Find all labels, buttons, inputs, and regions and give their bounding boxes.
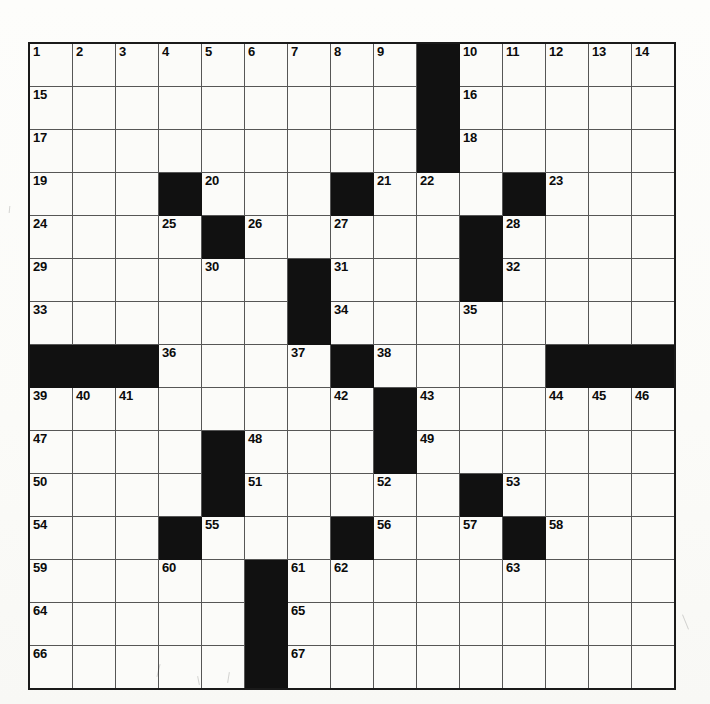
crossword-cell[interactable] <box>288 474 331 517</box>
crossword-cell[interactable]: 47 <box>29 431 73 474</box>
crossword-cell[interactable]: 37 <box>288 345 331 388</box>
crossword-cell[interactable] <box>417 345 460 388</box>
crossword-cell[interactable] <box>460 646 503 690</box>
crossword-cell[interactable] <box>116 259 159 302</box>
crossword-cell[interactable]: 43 <box>417 388 460 431</box>
crossword-cell[interactable] <box>374 302 417 345</box>
crossword-cell[interactable] <box>288 87 331 130</box>
crossword-cell[interactable] <box>546 130 589 173</box>
crossword-cell[interactable] <box>202 302 245 345</box>
crossword-cell[interactable]: 62 <box>331 560 374 603</box>
crossword-cell[interactable] <box>288 388 331 431</box>
crossword-cell[interactable] <box>417 259 460 302</box>
crossword-cell[interactable]: 38 <box>374 345 417 388</box>
crossword-cell[interactable]: 4 <box>159 43 202 87</box>
crossword-cell[interactable] <box>288 173 331 216</box>
crossword-cell[interactable]: 52 <box>374 474 417 517</box>
crossword-cell[interactable] <box>503 603 546 646</box>
crossword-cell[interactable] <box>632 560 676 603</box>
crossword-cell[interactable]: 48 <box>245 431 288 474</box>
crossword-cell[interactable] <box>589 302 632 345</box>
crossword-cell[interactable]: 32 <box>503 259 546 302</box>
crossword-cell[interactable] <box>202 87 245 130</box>
crossword-cell[interactable]: 20 <box>202 173 245 216</box>
crossword-cell[interactable] <box>116 87 159 130</box>
crossword-cell[interactable] <box>632 173 676 216</box>
crossword-cell[interactable]: 21 <box>374 173 417 216</box>
crossword-cell[interactable] <box>374 603 417 646</box>
crossword-cell[interactable] <box>73 474 116 517</box>
crossword-cell[interactable] <box>503 130 546 173</box>
crossword-cell[interactable] <box>288 431 331 474</box>
crossword-cell[interactable]: 39 <box>29 388 73 431</box>
crossword-cell[interactable] <box>116 560 159 603</box>
crossword-cell[interactable] <box>374 560 417 603</box>
crossword-cell[interactable] <box>503 388 546 431</box>
crossword-cell[interactable] <box>632 259 676 302</box>
crossword-cell[interactable] <box>245 130 288 173</box>
crossword-cell[interactable] <box>417 603 460 646</box>
crossword-cell[interactable]: 49 <box>417 431 460 474</box>
crossword-cell[interactable]: 36 <box>159 345 202 388</box>
crossword-cell[interactable] <box>589 216 632 259</box>
crossword-cell[interactable] <box>546 302 589 345</box>
crossword-cell[interactable] <box>331 431 374 474</box>
crossword-cell[interactable]: 41 <box>116 388 159 431</box>
crossword-cell[interactable] <box>417 517 460 560</box>
crossword-cell[interactable] <box>159 474 202 517</box>
crossword-cell[interactable]: 26 <box>245 216 288 259</box>
crossword-cell[interactable] <box>589 130 632 173</box>
crossword-cell[interactable] <box>116 474 159 517</box>
crossword-cell[interactable]: 6 <box>245 43 288 87</box>
crossword-cell[interactable]: 5 <box>202 43 245 87</box>
crossword-cell[interactable] <box>73 603 116 646</box>
crossword-cell[interactable]: 16 <box>460 87 503 130</box>
crossword-cell[interactable]: 10 <box>460 43 503 87</box>
crossword-cell[interactable]: 30 <box>202 259 245 302</box>
crossword-cell[interactable] <box>632 474 676 517</box>
crossword-cell[interactable] <box>331 474 374 517</box>
crossword-cell[interactable] <box>546 87 589 130</box>
crossword-cell[interactable] <box>417 646 460 690</box>
crossword-cell[interactable]: 29 <box>29 259 73 302</box>
crossword-cell[interactable] <box>546 603 589 646</box>
crossword-cell[interactable] <box>589 431 632 474</box>
crossword-cell[interactable]: 2 <box>73 43 116 87</box>
crossword-cell[interactable] <box>245 302 288 345</box>
crossword-cell[interactable]: 57 <box>460 517 503 560</box>
crossword-cell[interactable] <box>245 517 288 560</box>
crossword-cell[interactable] <box>632 603 676 646</box>
crossword-cell[interactable] <box>288 130 331 173</box>
crossword-cell[interactable] <box>632 302 676 345</box>
crossword-cell[interactable]: 61 <box>288 560 331 603</box>
crossword-cell[interactable] <box>73 259 116 302</box>
crossword-cell[interactable]: 65 <box>288 603 331 646</box>
crossword-cell[interactable]: 44 <box>546 388 589 431</box>
crossword-cell[interactable]: 50 <box>29 474 73 517</box>
crossword-cell[interactable] <box>116 173 159 216</box>
crossword-cell[interactable] <box>460 560 503 603</box>
crossword-cell[interactable] <box>503 431 546 474</box>
crossword-cell[interactable] <box>417 216 460 259</box>
crossword-cell[interactable] <box>159 646 202 690</box>
crossword-cell[interactable] <box>546 431 589 474</box>
crossword-cell[interactable] <box>288 216 331 259</box>
crossword-cell[interactable] <box>202 560 245 603</box>
crossword-cell[interactable] <box>460 173 503 216</box>
crossword-cell[interactable]: 15 <box>29 87 73 130</box>
crossword-cell[interactable] <box>589 87 632 130</box>
crossword-cell[interactable] <box>374 259 417 302</box>
crossword-cell[interactable] <box>460 603 503 646</box>
crossword-cell[interactable] <box>460 345 503 388</box>
crossword-cell[interactable]: 46 <box>632 388 676 431</box>
crossword-cell[interactable] <box>159 87 202 130</box>
crossword-cell[interactable] <box>73 646 116 690</box>
crossword-cell[interactable] <box>73 560 116 603</box>
crossword-cell[interactable] <box>632 87 676 130</box>
crossword-cell[interactable] <box>73 130 116 173</box>
crossword-cell[interactable] <box>503 87 546 130</box>
crossword-cell[interactable] <box>632 517 676 560</box>
crossword-cell[interactable]: 55 <box>202 517 245 560</box>
crossword-cell[interactable] <box>546 560 589 603</box>
crossword-grid[interactable]: 1234567891011121314151617181920212223242… <box>28 42 676 690</box>
